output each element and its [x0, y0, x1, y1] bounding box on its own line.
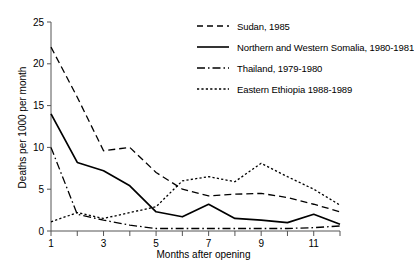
legend-label-sudan: Sudan, 1985: [237, 21, 290, 32]
legend-label-somalia: Northern and Western Somalia, 1980-1981: [237, 42, 414, 53]
legend-label-thailand: Thailand, 1979-1980: [237, 63, 322, 74]
legend-item-ethiopia: Eastern Ethiopia 1988-1989: [196, 80, 404, 98]
legend-swatch-solid: [196, 41, 230, 53]
x-tick-label: 5: [153, 238, 159, 249]
legend-label-ethiopia: Eastern Ethiopia 1988-1989: [237, 84, 352, 95]
legend-swatch-dash-dot: [196, 62, 230, 74]
legend-item-sudan: Sudan, 1985: [196, 17, 404, 35]
y-tick-label: 0: [38, 226, 44, 237]
y-tick-label: 5: [38, 184, 44, 195]
chart-legend: Sudan, 1985 Northern and Western Somalia…: [196, 17, 404, 101]
legend-item-somalia: Northern and Western Somalia, 1980-1981: [196, 38, 404, 56]
x-tick-label: 3: [101, 238, 107, 249]
y-axis-title: Deaths per 1000 per month: [17, 43, 28, 213]
x-tick-label: 9: [258, 238, 264, 249]
series-line: [51, 114, 340, 224]
y-tick-label: 20: [33, 58, 45, 69]
x-tick-label: 1: [48, 238, 54, 249]
x-tick-label: 7: [206, 238, 212, 249]
y-tick-label: 10: [33, 142, 45, 153]
y-tick-label: 15: [33, 100, 45, 111]
legend-item-thailand: Thailand, 1979-1980: [196, 59, 404, 77]
x-tick-label: 11: [309, 238, 320, 249]
legend-swatch-dashed: [196, 20, 230, 32]
x-axis-title: Months after opening: [0, 249, 407, 260]
legend-swatch-dotted: [196, 83, 230, 95]
y-tick-label: 25: [33, 17, 45, 28]
